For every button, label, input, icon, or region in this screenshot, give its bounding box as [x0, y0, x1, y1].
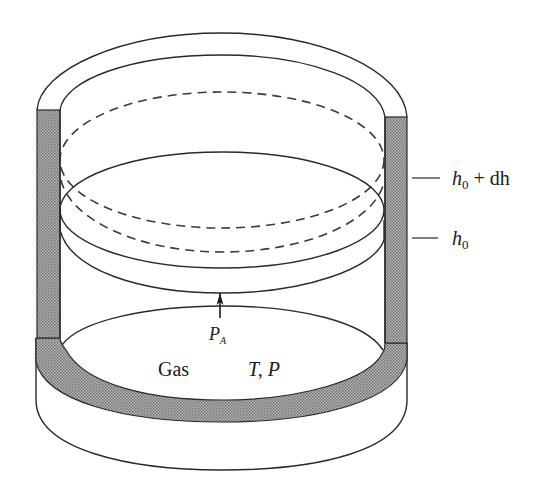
left-wall [37, 110, 60, 338]
label-gas: Gas [158, 358, 189, 380]
inner-wall-lines [60, 110, 385, 343]
piston-initial [60, 152, 384, 293]
top-rim [37, 33, 407, 117]
label-height-upper: h0 + dh [452, 167, 510, 192]
label-pressure-arrow: PA [208, 324, 227, 346]
right-wall [385, 117, 407, 343]
height-ticks [412, 178, 440, 238]
piston-displaced [60, 92, 384, 252]
cylinder-floor-wall [36, 338, 407, 422]
label-plus-dh: + dh [469, 167, 510, 189]
label-height-lower: h0 [452, 227, 469, 252]
label-state: T, P [248, 358, 280, 380]
cylinder-piston-diagram: h0 + dh h0 PA Gas T, P [0, 0, 553, 488]
